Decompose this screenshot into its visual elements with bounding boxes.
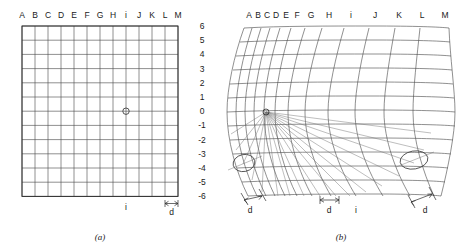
panel-b: A B C D E F G H i J K L M (227, 10, 455, 242)
panel-b-column-labels: A B C D E F G H i J K L M (246, 10, 448, 20)
col-label-b-h: H (326, 10, 332, 20)
y-tick-5: 5 (200, 35, 205, 45)
panel-b-horizontal-lines (227, 26, 455, 196)
y-tick-4: 4 (200, 49, 205, 59)
col-label-b-m: M (441, 10, 448, 20)
col-label-g: G (97, 10, 104, 20)
col-label-e: E (71, 10, 77, 20)
panel-b-dimension-d-left-label: d (248, 205, 253, 215)
col-label-a: A (19, 10, 25, 20)
figure-svg: A B C D E F G H i J K L M (0, 0, 459, 249)
panel-b-caption: (b) (336, 232, 347, 242)
panel-b-dimension-d-center: d (320, 196, 339, 215)
panel-a-bottom-label-i: i (125, 202, 127, 212)
y-tick-m3: -3 (198, 149, 206, 159)
y-tick-2: 2 (200, 78, 205, 88)
y-tick-m5: -5 (198, 177, 206, 187)
panel-a-column-labels: A B C D E F G H i J K L M (19, 10, 181, 20)
y-tick-0: 0 (200, 106, 205, 116)
col-label-d: D (58, 10, 64, 20)
col-label-k: K (149, 10, 155, 20)
col-label-i: i (125, 10, 127, 20)
panel-a-dimension-d: d (165, 200, 178, 217)
y-tick-3: 3 (200, 64, 205, 74)
panel-b-vertical-lines (227, 28, 455, 196)
col-label-b-i: i (350, 10, 352, 20)
col-label-b-j: J (373, 10, 377, 20)
col-label-b-a: A (246, 10, 252, 20)
col-label-f: F (84, 10, 89, 20)
col-label-b-d: D (273, 10, 279, 20)
panel-b-bottom-label-i: i (355, 205, 357, 215)
panel-b-dimension-d-center-label: d (327, 205, 332, 215)
col-label-b-c: C (264, 10, 270, 20)
panel-a-dimension-d-label: d (169, 207, 174, 217)
panel-b-dimension-d-right-label: d (423, 205, 428, 215)
col-label-b-b: B (255, 10, 261, 20)
col-label-c: C (45, 10, 51, 20)
y-tick-6: 6 (200, 21, 205, 31)
y-axis-labels: 6 5 4 3 2 1 0 -1 -2 -3 -4 -5 -6 (198, 21, 206, 201)
col-label-b-k: K (396, 10, 402, 20)
y-tick-1: 1 (200, 92, 205, 102)
figure-container: A B C D E F G H i J K L M (0, 0, 459, 249)
panel-a: A B C D E F G H i J K L M (19, 10, 181, 242)
col-label-b: B (32, 10, 38, 20)
panel-b-ray-fan (231, 112, 431, 196)
col-label-h: H (110, 10, 116, 20)
col-label-b-g: G (308, 10, 315, 20)
y-tick-m2: -2 (198, 135, 206, 145)
col-label-b-f: F (294, 10, 299, 20)
y-tick-m4: -4 (198, 163, 206, 173)
col-label-m: M (174, 10, 181, 20)
y-tick-m6: -6 (198, 191, 206, 201)
col-label-b-l: L (420, 10, 425, 20)
col-label-j: J (137, 10, 141, 20)
panel-b-dimension-d-left: d (241, 189, 266, 215)
y-tick-m1: -1 (198, 120, 206, 130)
col-label-l: L (163, 10, 168, 20)
panel-a-caption: (a) (95, 232, 106, 242)
col-label-b-e: E (283, 10, 289, 20)
